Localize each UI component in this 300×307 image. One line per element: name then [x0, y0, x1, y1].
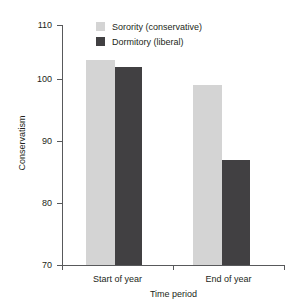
y-axis-tick	[57, 203, 62, 204]
y-axis-tick-label-70: 70	[12, 261, 52, 270]
y-axis-title: Conservatism	[17, 93, 27, 193]
bar-sorority-end-of-year	[193, 85, 222, 265]
y-axis-tick	[57, 25, 62, 26]
y-axis-tick-label-100: 100	[12, 75, 52, 84]
legend-entry-dormitory: Dormitory (liberal)	[96, 34, 202, 49]
legend-swatch-icon-dormitory	[96, 37, 105, 46]
bar-dormitory-end-of-year	[222, 160, 250, 265]
legend-label-sorority: Sorority (conservative)	[112, 22, 202, 32]
legend-label-dormitory: Dormitory (liberal)	[112, 37, 184, 47]
x-axis-tick	[284, 265, 285, 270]
y-axis-tick	[57, 79, 62, 80]
y-axis-line	[62, 25, 63, 265]
y-axis-tick	[57, 141, 62, 142]
x-axis-tick	[62, 265, 63, 270]
x-axis-tick	[173, 265, 174, 270]
chart-legend: Sorority (conservative) Dormitory (liber…	[96, 19, 202, 49]
y-axis-tick-label-80: 80	[12, 199, 52, 208]
bar-dormitory-start-of-year	[115, 67, 142, 265]
bar-chart-figure: 110 100 90 80 70 Conservatism Start of y…	[0, 0, 300, 307]
x-axis-title: Time period	[62, 289, 285, 299]
bar-sorority-start-of-year	[86, 60, 115, 265]
x-axis-tick-label-start-of-year: Start of year	[62, 274, 173, 284]
y-axis-tick-label-110: 110	[12, 21, 52, 30]
legend-swatch-icon-sorority	[96, 22, 105, 31]
legend-entry-sorority: Sorority (conservative)	[96, 19, 202, 34]
x-axis-tick-label-end-of-year: End of year	[173, 274, 284, 284]
